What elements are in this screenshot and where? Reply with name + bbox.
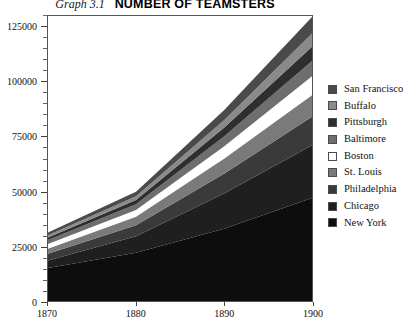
legend-item[interactable]: Chicago — [328, 201, 403, 212]
legend-swatch-icon — [328, 168, 337, 177]
legend-swatch-icon — [328, 202, 337, 211]
legend-item[interactable]: San Francisco — [328, 84, 403, 95]
legend-item-label: New York — [344, 218, 387, 229]
plot-area — [47, 15, 313, 302]
stacked-area-series — [48, 16, 312, 301]
x-tick — [313, 302, 314, 306]
x-axis: 1870188018901900 — [0, 302, 330, 327]
page-title: NUMBER OF TEAMSTERS — [115, 0, 275, 11]
legend-item-label: San Francisco — [344, 84, 403, 95]
legend-item[interactable]: Philadelphia — [328, 184, 403, 195]
y-axis: 0250005000075000100000125000 — [0, 0, 47, 327]
legend-swatch-icon — [328, 152, 337, 161]
y-tick-label: 125000 — [7, 21, 37, 32]
legend-item-label: Baltimore — [344, 134, 386, 145]
legend-swatch-icon — [328, 135, 337, 144]
legend-item[interactable]: Pittsburgh — [328, 117, 403, 128]
legend-item-label: Philadelphia — [344, 184, 397, 195]
x-tick — [136, 302, 137, 306]
x-tick-label: 1880 — [126, 308, 146, 319]
y-tick-label: 75000 — [12, 131, 37, 142]
y-tick-label: 100000 — [7, 76, 37, 87]
legend-swatch-icon — [328, 85, 337, 94]
legend-item[interactable]: Baltimore — [328, 134, 403, 145]
x-tick-label: 1870 — [37, 308, 57, 319]
legend-item-label: Buffalo — [344, 101, 376, 112]
x-tick-label: 1890 — [214, 308, 234, 319]
x-tick-label: 1900 — [303, 308, 323, 319]
figure-number: Graph 3.1 — [55, 0, 104, 12]
legend-item-label: Chicago — [344, 201, 379, 212]
legend-item-label: St. Louis — [344, 167, 382, 178]
legend-item-label: Boston — [344, 151, 374, 162]
chart-legend: San FranciscoBuffaloPittsburghBaltimoreB… — [328, 84, 403, 228]
legend-item[interactable]: Buffalo — [328, 101, 403, 112]
legend-item-label: Pittsburgh — [344, 117, 387, 128]
legend-item[interactable]: New York — [328, 218, 403, 229]
legend-swatch-icon — [328, 118, 337, 127]
chart-title: Graph 3.1 NUMBER OF TEAMSTERS — [0, 0, 330, 12]
legend-swatch-icon — [328, 185, 337, 194]
y-tick-label: 50000 — [12, 186, 37, 197]
y-tick-label: 25000 — [12, 241, 37, 252]
legend-swatch-icon — [328, 218, 337, 227]
legend-item[interactable]: Boston — [328, 151, 403, 162]
legend-swatch-icon — [328, 101, 337, 110]
legend-item[interactable]: St. Louis — [328, 167, 403, 178]
x-tick — [224, 302, 225, 306]
x-tick — [47, 302, 48, 306]
chart-page: Graph 3.1 NUMBER OF TEAMSTERS 0250005000… — [0, 0, 420, 327]
